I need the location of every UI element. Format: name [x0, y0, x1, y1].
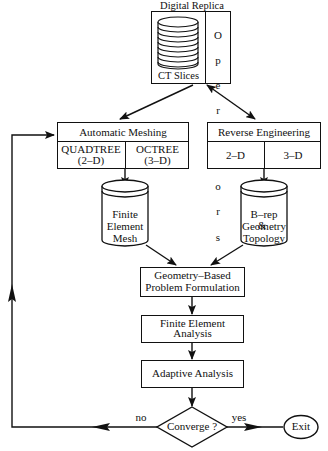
ct-slices-label: CT Slices [152, 70, 205, 81]
reverse-engineering-title: Reverse Engineering [207, 127, 321, 138]
brep-ampersand: & [255, 220, 269, 231]
arrow-no-loop-back [12, 135, 157, 427]
fe-mesh-line3: Mesh [102, 233, 148, 244]
brep-line3: Topology [241, 233, 287, 244]
fe-analysis-line2: Analysis [141, 328, 244, 339]
yes-label: yes [228, 412, 250, 423]
octree-3d-label: (3–D) [126, 155, 189, 166]
operators-divider [205, 11, 206, 84]
converge-label: Converge ? [160, 421, 224, 432]
arrow-replica-to-meshing [120, 85, 193, 119]
adaptive-analysis-label: Adaptive Analysis [141, 368, 244, 379]
exit-label: Exit [284, 421, 318, 432]
arrow-mesh-db-to-formulation [146, 245, 176, 265]
reverse-2d-label: 2–D [207, 150, 264, 161]
fe-mesh-line2: Element [102, 221, 148, 232]
fe-mesh-line1: Finite [102, 209, 148, 220]
problem-formulation-line1: Geometry–Based [140, 270, 245, 281]
operators-label: O p e r a t o r s [212, 14, 224, 82]
reverse-3d-label: 3–D [265, 150, 321, 161]
no-label: no [132, 412, 150, 423]
problem-formulation-line2: Problem Formulation [140, 282, 245, 293]
digital-replica-title: Digital Replica [148, 0, 236, 11]
automatic-meshing-title: Automatic Meshing [57, 127, 189, 138]
quadtree-2d-label: (2–D) [57, 155, 125, 166]
